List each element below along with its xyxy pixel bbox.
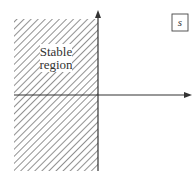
stable-region-label-line2: region (39, 57, 73, 72)
real-axis-arrow-icon (184, 92, 192, 98)
plane-label: s (178, 16, 182, 28)
s-plane-diagram: Stable region s (0, 0, 196, 178)
imaginary-axis-arrow-icon (95, 10, 101, 18)
